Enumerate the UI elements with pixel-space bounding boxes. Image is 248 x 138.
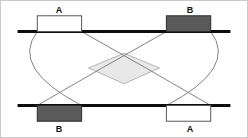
coupled-line-diagram: A B B A [0, 0, 248, 138]
coupling-overlap [89, 53, 160, 84]
label-bottom-left-B: B [49, 125, 69, 134]
label-top-left-A: A [49, 6, 69, 15]
block-top-right-B [166, 16, 210, 32]
label-top-right-B: B [180, 6, 200, 15]
block-bottom-left-B [37, 105, 81, 121]
block-top-left-A [37, 16, 81, 32]
label-bottom-right-A: A [180, 125, 200, 134]
diagram-canvas [1, 1, 247, 137]
block-bottom-right-A [166, 105, 210, 121]
